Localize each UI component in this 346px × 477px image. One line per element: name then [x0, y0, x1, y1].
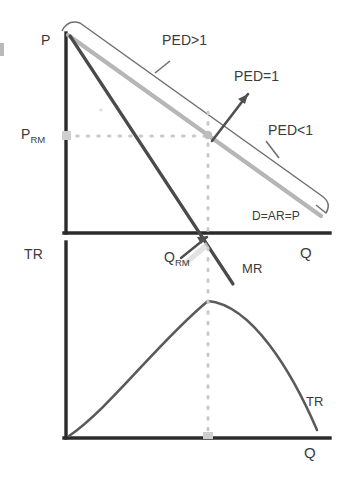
demand-bracket [62, 22, 328, 213]
total-revenue-axis-label: TR [24, 247, 43, 261]
total-revenue-curve [69, 301, 317, 436]
quantity-axis-label-bottom: Q [304, 445, 316, 460]
quantity-rm-label-subscript: RM [175, 257, 190, 268]
diagram-vector-layer [0, 0, 346, 477]
ped-elastic-label: PED>1 [162, 33, 207, 47]
marginal-revenue-label: MR [242, 262, 262, 275]
quantity-axis-label-top: Q [300, 245, 312, 260]
ped-inelastic-label: PED<1 [268, 123, 313, 137]
quantity-rm-label: QRM [164, 250, 190, 267]
quantity-rm-axis-marker [203, 432, 213, 439]
price-rm-label: PRM [21, 127, 45, 144]
total-revenue-chart [64, 236, 330, 439]
scan-speck [99, 108, 102, 111]
price-rm-axis-marker [62, 131, 71, 140]
ped-inelastic-tick [266, 141, 279, 158]
price-axis-label: P [41, 33, 50, 47]
ped-unitary-label: PED=1 [234, 69, 279, 83]
ped-unitary-arrow-icon [212, 94, 248, 141]
demand-curve-label: D=AR=P [252, 210, 300, 222]
total-revenue-curve-label: TR [306, 395, 324, 408]
diagram-canvas: P PRM PED>1 PED=1 PED<1 D=AR=P Q TR QRM … [0, 0, 346, 477]
ped-unitary-point [204, 131, 212, 139]
price-rm-label-subscript: RM [30, 134, 45, 145]
ped-elastic-tick [155, 61, 170, 73]
quantity-rm-label-main: Q [164, 249, 175, 265]
